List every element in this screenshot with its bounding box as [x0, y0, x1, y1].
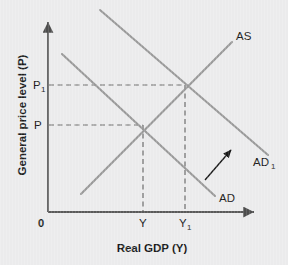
x-tick-label-y: Y [139, 217, 147, 229]
as-ad-diagram: AS AD AD 1 P 1 P Y Y 1 0 General price l… [0, 0, 288, 265]
x-axis-title: Real GDP (Y) [117, 242, 188, 254]
y-axis-title: General price level (P) [16, 54, 28, 175]
y-tick-label-p1: P [33, 79, 41, 91]
y-tick-label-p1-subscript: 1 [41, 85, 46, 94]
y-tick-label-p: P [34, 119, 42, 131]
origin-label: 0 [38, 217, 44, 229]
ad1-curve-label-subscript: 1 [271, 162, 276, 171]
diagram-canvas: AS AD AD 1 P 1 P Y Y 1 0 General price l… [0, 0, 288, 265]
ad1-curve-label: AD [253, 156, 269, 168]
ad-curve-label: AD [219, 192, 235, 204]
x-tick-label-y1-subscript: 1 [187, 223, 192, 232]
as-curve-label: AS [236, 30, 252, 42]
x-tick-label-y1: Y [179, 217, 187, 229]
